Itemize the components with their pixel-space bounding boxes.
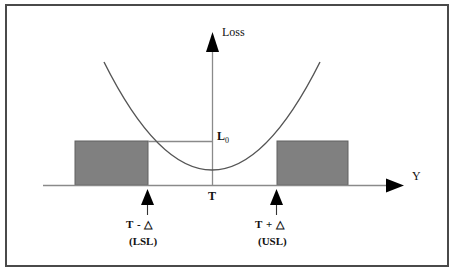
lower-spec-limit-expression: T - △ xyxy=(126,219,153,230)
right-tolerance-block xyxy=(277,141,348,185)
loss-function-figure: Loss Y L0 T T - △ (LSL) T + △ (USL) xyxy=(0,0,455,273)
loss-level-letter: L xyxy=(217,129,225,143)
lower-spec-limit-name: (LSL) xyxy=(129,236,157,247)
upper-spec-limit-expression: T + △ xyxy=(255,219,284,230)
x-axis-arrowhead xyxy=(386,179,404,193)
usl-pointer-arrowhead xyxy=(270,189,283,205)
lsl-pointer-arrowhead xyxy=(141,189,154,205)
y-axis-arrowhead xyxy=(206,32,219,52)
x-axis-label: Y xyxy=(412,170,421,182)
loss-level-subscript: 0 xyxy=(225,136,229,145)
upper-spec-limit-name: (USL) xyxy=(258,236,287,247)
loss-level-label: L0 xyxy=(217,130,229,145)
left-tolerance-block xyxy=(75,141,148,185)
y-axis-label: Loss xyxy=(222,26,245,38)
target-label: T xyxy=(208,190,216,202)
